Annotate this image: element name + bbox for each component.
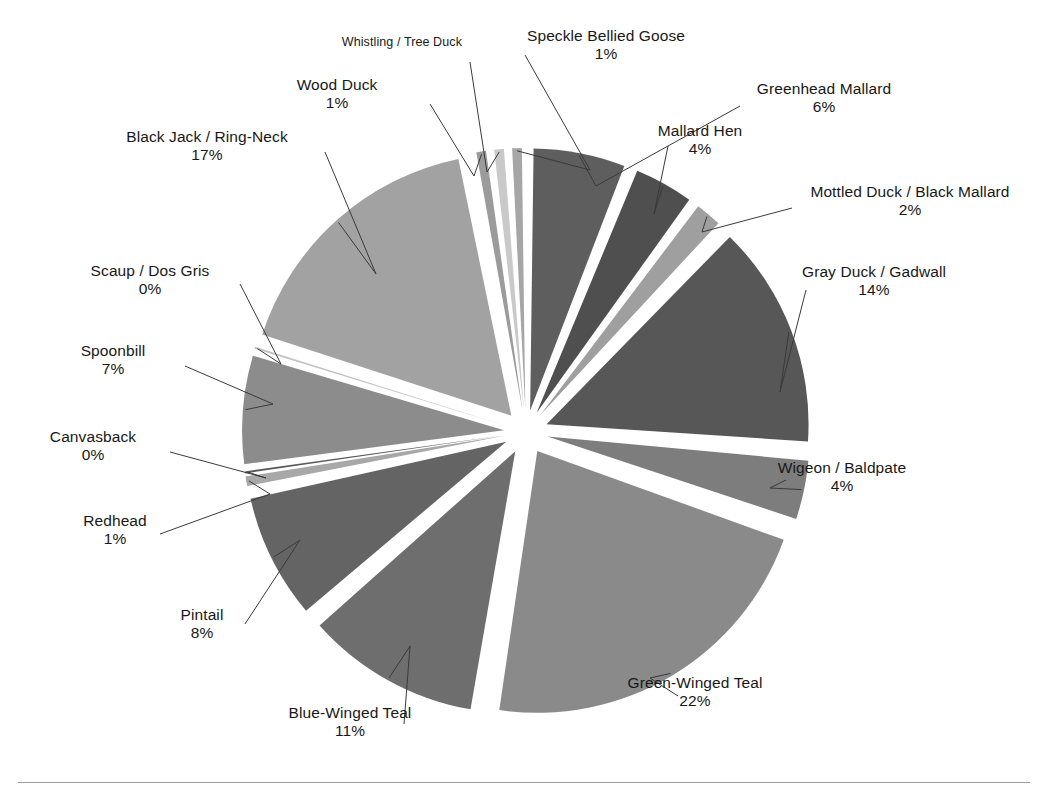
- slice-label-percent: 1%: [50, 530, 180, 548]
- slice-label-mallard-hen: Mallard Hen 4%: [620, 122, 780, 159]
- slice-label-canvasback: Canvasback 0%: [12, 428, 174, 465]
- slice-label-name: Speckle Bellied Goose: [501, 27, 711, 45]
- slice-label-spoonbill: Spoonbill 7%: [42, 342, 184, 379]
- slice-label-greenhead-mallard: Greenhead Mallard 6%: [714, 80, 934, 117]
- footer-divider: [18, 782, 1030, 783]
- footer-caption: [0, 790, 1048, 805]
- slice-label-percent: 0%: [12, 446, 174, 464]
- slice-label-percent: 2%: [782, 201, 1038, 219]
- slice-label-percent: 1%: [258, 94, 416, 112]
- slice-label-wigeon-baldpate: Wigeon / Baldpate 4%: [744, 459, 940, 496]
- slice-label-name: Green-Winged Teal: [586, 674, 804, 692]
- slice-label-pintail: Pintail 8%: [143, 606, 261, 643]
- slice-label-name: Wood Duck: [258, 76, 416, 94]
- slice-label-redhead: Redhead 1%: [50, 512, 180, 549]
- slice-label-percent: 8%: [143, 624, 261, 642]
- slice-label-name: Canvasback: [12, 428, 174, 446]
- slice-label-wood-duck: Wood Duck 1%: [258, 76, 416, 113]
- slice-label-gray-duck-gadwall: Gray Duck / Gadwall 14%: [768, 263, 980, 300]
- slice-label-name: Greenhead Mallard: [714, 80, 934, 98]
- slice-label-scaup-dos-gris: Scaup / Dos Gris 0%: [60, 262, 240, 299]
- slice-label-name: Mottled Duck / Black Mallard: [782, 183, 1038, 201]
- slice-label-percent: 1%: [501, 45, 711, 63]
- slice-label-green-winged-teal: Green-Winged Teal 22%: [586, 674, 804, 711]
- pie-slices: [242, 148, 808, 713]
- slice-label-percent: 22%: [586, 692, 804, 710]
- pie-slice[interactable]: [512, 148, 525, 410]
- slice-label-name: Spoonbill: [42, 342, 184, 360]
- slice-label-percent: 6%: [714, 98, 934, 116]
- slice-label-name: Wigeon / Baldpate: [744, 459, 940, 477]
- slice-label-blue-winged-teal: Blue-Winged Teal 11%: [252, 704, 448, 741]
- slice-label-black-jack-ring-neck: Black Jack / Ring-Neck 17%: [93, 128, 321, 165]
- slice-label-name: Scaup / Dos Gris: [60, 262, 240, 280]
- slice-label-percent: 14%: [768, 281, 980, 299]
- slice-label-percent: 4%: [620, 140, 780, 158]
- slice-label-name: Pintail: [143, 606, 261, 624]
- slice-label-percent: 11%: [252, 722, 448, 740]
- chart-page: Speckle Bellied Goose 1% Whistling / Tre…: [0, 0, 1048, 805]
- slice-label-percent: 7%: [42, 360, 184, 378]
- leader-line: [702, 208, 792, 232]
- slice-label-percent: 17%: [93, 146, 321, 164]
- slice-label-name: Mallard Hen: [620, 122, 780, 140]
- slice-label-name: Blue-Winged Teal: [252, 704, 448, 722]
- slice-label-name: Whistling / Tree Duck: [252, 35, 462, 50]
- slice-label-speckle-bellied-goose: Speckle Bellied Goose 1%: [501, 27, 711, 64]
- slice-label-name: Gray Duck / Gadwall: [768, 263, 980, 281]
- slice-label-whistling-tree-duck: Whistling / Tree Duck: [252, 35, 462, 50]
- slice-label-name: Black Jack / Ring-Neck: [93, 128, 321, 146]
- slice-label-mottled-duck-black-mallard: Mottled Duck / Black Mallard 2%: [782, 183, 1038, 220]
- slice-label-percent: 0%: [60, 280, 240, 298]
- exploded-pie-chart: [0, 0, 1048, 805]
- slice-label-name: Redhead: [50, 512, 180, 530]
- slice-label-percent: 4%: [744, 477, 940, 495]
